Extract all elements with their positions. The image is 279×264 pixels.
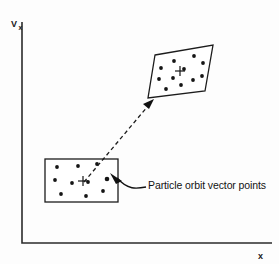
axis-lines	[22, 22, 272, 243]
orbit-point	[76, 164, 80, 168]
axes-group: V x x	[11, 19, 272, 261]
orbit-point	[200, 74, 204, 78]
callout-label: Particle orbit vector points	[148, 179, 266, 191]
orbit-point	[157, 77, 161, 81]
orbit-point-called-out	[105, 177, 110, 182]
orbit-point	[171, 76, 175, 80]
orbit-point	[192, 54, 196, 58]
orbit-point	[101, 189, 105, 193]
x-axis-label: x	[258, 251, 263, 261]
orbit-point	[191, 78, 195, 82]
orbit-point	[53, 178, 57, 182]
callout-leader-curve	[117, 178, 146, 188]
orbit-point	[179, 83, 183, 87]
orbit-point	[159, 66, 163, 70]
y-axis-label-subscript: x	[19, 24, 23, 31]
phase-space-evolution-arrow	[84, 99, 154, 182]
initial-phase-space-box	[45, 159, 118, 202]
orbit-point	[164, 87, 168, 91]
diagram-canvas: V x x	[0, 0, 279, 264]
orbit-point	[201, 61, 205, 65]
orbit-point	[55, 165, 59, 169]
orbit-point	[59, 192, 63, 196]
orbit-point	[182, 67, 186, 71]
y-axis-label: V	[11, 19, 17, 29]
orbit-point	[70, 181, 74, 185]
evolved-phase-space-parallelogram	[148, 45, 213, 98]
orbit-point	[84, 194, 88, 198]
evolution-arrow-head	[143, 99, 154, 109]
orbit-point	[172, 59, 176, 63]
phase-space-figure: V x x	[0, 0, 279, 264]
